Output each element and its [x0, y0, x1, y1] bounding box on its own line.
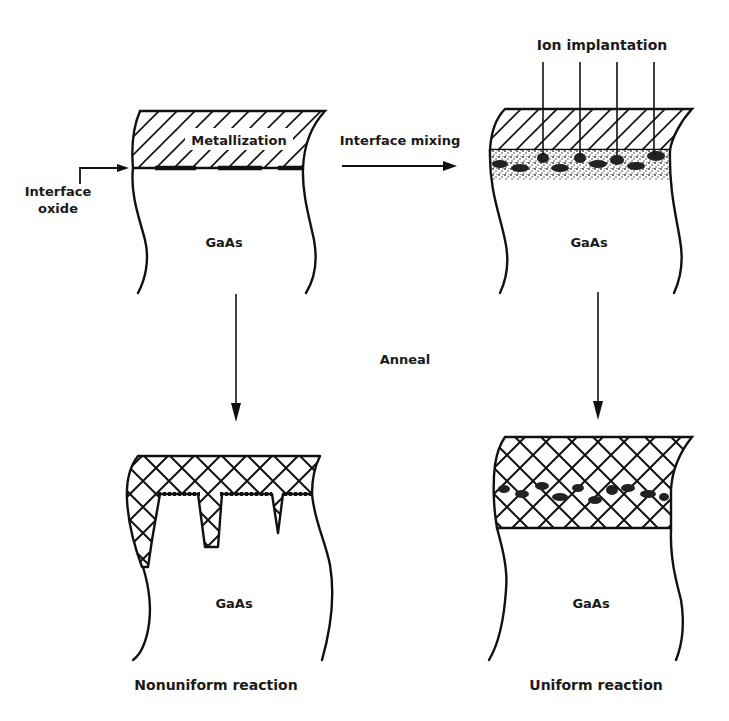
substrate-label: GaAs [570, 235, 608, 250]
substrate-right-edge [670, 150, 682, 293]
nonuniform-caption: Nonuniform reaction [134, 677, 297, 693]
panel-ion-mixed [490, 62, 692, 293]
panel-uniform [489, 437, 692, 660]
interface-oxide-label-line1: Interface [25, 184, 92, 199]
panel-nonuniform [127, 456, 333, 660]
ion-implantation-label: Ion implantation [537, 37, 668, 53]
arrowhead-icon [443, 161, 457, 171]
reacted-layer-uniform [494, 437, 692, 528]
arrow-anneal-right [593, 292, 603, 420]
interface-oxide-label-line2: oxide [38, 201, 78, 216]
reacted-layer-nonuniform [127, 456, 320, 567]
arrowhead-icon [593, 401, 603, 420]
process-diagram: Metallization Interface oxide GaAs Ion i… [0, 0, 729, 721]
substrate-right-edge [303, 168, 316, 293]
substrate-left-edge [133, 567, 150, 660]
uniform-caption: Uniform reaction [529, 677, 662, 693]
arrow-anneal-left [231, 294, 241, 422]
interface-oxide-pointer [80, 168, 120, 184]
substrate-right-edge [312, 494, 332, 660]
interface-mixing-label: Interface mixing [340, 133, 460, 148]
substrate-label: GaAs [205, 235, 243, 250]
substrate-right-edge [671, 528, 683, 660]
substrate-left-edge [132, 168, 147, 293]
arrowhead-icon [117, 164, 129, 172]
anneal-label: Anneal [380, 352, 431, 367]
substrate-label: GaAs [215, 596, 253, 611]
metallization-label: Metallization [191, 133, 286, 148]
substrate-label: GaAs [572, 596, 610, 611]
substrate-left-edge [489, 528, 506, 660]
metallization-layer [490, 109, 692, 150]
arrow-interface-mixing [342, 161, 457, 171]
arrowhead-icon [231, 403, 241, 422]
